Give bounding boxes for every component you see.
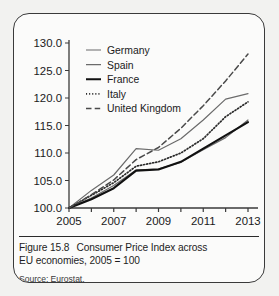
y-tick-label: 115.0 [34, 120, 62, 132]
x-tick-label: 2013 [235, 215, 260, 226]
legend-label-italy: Italy [107, 89, 127, 100]
y-tick-label: 125.0 [33, 65, 62, 77]
figure-caption: Figure 15.8Consumer Price Index across E… [19, 241, 261, 267]
caption-figure-number: Figure 15.8 [19, 242, 69, 253]
y-tick-label: 110.0 [34, 147, 62, 159]
legend-label-united-kingdom: United Kingdom [107, 103, 181, 114]
series-line-united-kingdom [69, 54, 248, 208]
figure-screenshot: 100.0105.0110.0115.0120.0125.0130.020052… [0, 0, 279, 296]
x-tick-label: 2011 [191, 215, 216, 226]
series-line-germany [69, 120, 248, 208]
caption-second-line: EU economies, 2005 = 100 [19, 254, 261, 267]
y-tick-label: 105.0 [33, 175, 62, 187]
x-tick-label: 2005 [56, 215, 81, 226]
x-tick-label: 2009 [146, 215, 171, 226]
y-tick-label: 130.0 [33, 37, 62, 49]
caption-divider [19, 236, 259, 237]
caption-title-text: Consumer Price Index across [76, 242, 207, 253]
legend-label-germany: Germany [107, 45, 151, 56]
y-tick-label: 100.0 [33, 202, 62, 214]
caption-first-line: Figure 15.8Consumer Price Index across [19, 241, 261, 254]
chart-plot-area: 100.0105.0110.0115.0120.0125.0130.020052… [14, 14, 265, 226]
figure-source: Source: Eurostat. [19, 274, 85, 283]
legend-label-spain: Spain [107, 60, 134, 71]
line-chart: 100.0105.0110.0115.0120.0125.0130.020052… [14, 14, 265, 226]
figure-card: 100.0105.0110.0115.0120.0125.0130.020052… [13, 13, 265, 283]
legend-label-france: France [107, 74, 140, 85]
y-tick-label: 120.0 [33, 92, 62, 104]
x-tick-label: 2007 [101, 215, 126, 226]
